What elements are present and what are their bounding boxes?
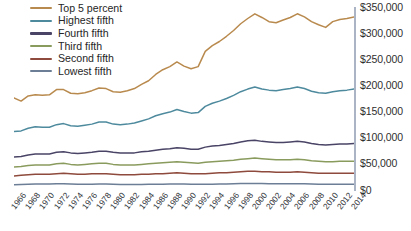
legend-line-swatch-icon: [30, 58, 52, 60]
y-axis-line: [354, 7, 356, 191]
series-line-second-fifth: [14, 171, 354, 176]
legend-item-third-fifth[interactable]: Third fifth: [30, 40, 122, 53]
legend-line-swatch-icon: [30, 32, 52, 34]
legend-item-label: Top 5 percent: [58, 3, 122, 14]
y-axis-tick: $300,000: [360, 28, 403, 39]
legend-line-swatch-icon: [30, 7, 52, 9]
legend-item-highest-fifth[interactable]: Highest fifth: [30, 15, 122, 28]
legend-item-top-5-percent[interactable]: Top 5 percent: [30, 2, 122, 15]
chart-legend: Top 5 percentHighest fifthFourth fifthTh…: [30, 2, 122, 78]
y-axis-tick: $50,000: [360, 158, 397, 169]
y-axis-tick: $350,000: [360, 2, 403, 13]
legend-item-label: Lowest fifth: [58, 66, 112, 77]
legend-item-label: Third fifth: [58, 41, 102, 52]
legend-item-fourth-fifth[interactable]: Fourth fifth: [30, 27, 122, 40]
y-axis-tick: $100,000: [360, 132, 403, 143]
legend-item-label: Highest fifth: [58, 15, 114, 26]
x-axis-tick-labels: 1966196819701972197419761978198019821984…: [0, 191, 411, 231]
legend-item-lowest-fifth[interactable]: Lowest fifth: [30, 65, 122, 78]
legend-line-swatch-icon: [30, 45, 52, 47]
y-axis-tick: $150,000: [360, 106, 403, 117]
legend-line-swatch-icon: [30, 20, 52, 22]
series-line-fourth-fifth: [14, 140, 354, 157]
y-axis-tick-labels: $350,000$300,000$250,000$200,000$150,000…: [358, 0, 411, 200]
legend-item-label: Fourth fifth: [58, 28, 109, 39]
legend-item-label: Second fifth: [58, 53, 114, 64]
income-quintile-line-chart: $350,000$300,000$250,000$200,000$150,000…: [0, 0, 411, 231]
y-axis-tick: $200,000: [360, 80, 403, 91]
series-line-highest-fifth: [14, 87, 354, 131]
y-axis-tick: $250,000: [360, 54, 403, 65]
legend-line-swatch-icon: [30, 70, 52, 72]
legend-item-second-fifth[interactable]: Second fifth: [30, 52, 122, 65]
series-line-third-fifth: [14, 158, 354, 167]
series-line-lowest-fifth: [14, 183, 354, 184]
